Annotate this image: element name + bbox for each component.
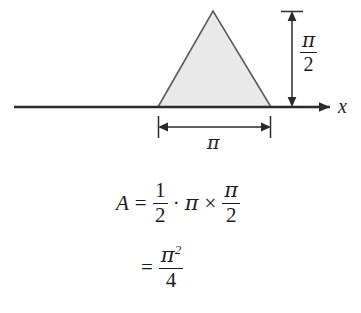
fraction-denominator: 2	[224, 205, 239, 226]
base-dimension-arrow-left	[158, 123, 168, 132]
equals-sign-2: =	[141, 255, 153, 280]
exponent-2: 2	[175, 242, 182, 257]
fraction-denominator: 4	[164, 270, 179, 291]
one-half-fraction: 1 2	[153, 180, 168, 226]
fraction-numerator: π	[222, 180, 240, 201]
pi-symbol: π	[185, 191, 199, 215]
fraction-denominator: 2	[153, 205, 168, 226]
base-dimension-arrow-right	[261, 123, 271, 132]
fraction-denominator: 2	[302, 54, 316, 74]
fraction-numerator: π	[300, 30, 317, 50]
height-dimension-label: π 2	[300, 30, 317, 74]
equals-sign-1: =	[135, 191, 147, 216]
shaded-triangle	[158, 11, 271, 107]
height-dimension-arrow-top	[288, 11, 297, 21]
base-dimension-label: π	[207, 133, 220, 152]
dot-operator: ·	[173, 191, 180, 216]
pi-over-2-fraction: π 2	[300, 30, 317, 74]
equation-line-1: A = 1 2 · π × π 2	[113, 180, 243, 226]
figure-container: x π 2 π A = 1 2 · π × π 2 = π2	[0, 0, 361, 313]
height-dimension-arrow-bottom	[288, 97, 297, 107]
pi-squared-over-4-fraction: π2 4	[159, 243, 183, 291]
x-axis-arrowhead	[319, 102, 330, 112]
pi-over-2-fraction: π 2	[222, 180, 240, 226]
equation-lhs-A: A	[116, 191, 129, 216]
fraction-numerator: 1	[153, 180, 168, 201]
fraction-numerator: π2	[159, 243, 183, 266]
x-axis-label: x	[338, 96, 347, 116]
equation-line-2: = π2 4	[138, 243, 186, 291]
multiplication-sign: ×	[204, 191, 216, 216]
pi-symbol: π	[161, 243, 175, 267]
